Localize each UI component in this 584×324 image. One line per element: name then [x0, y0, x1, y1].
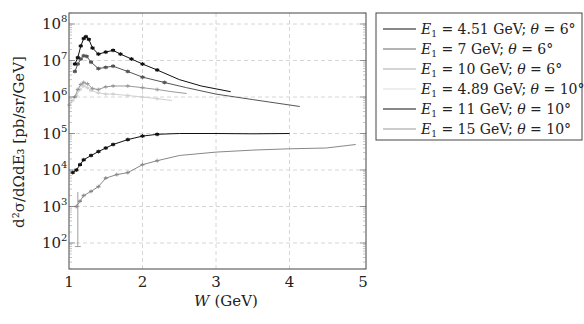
- y-tick-label: 104: [42, 159, 67, 179]
- x-tick-label: 4: [285, 273, 295, 291]
- y-tick-labels: 108107106105104103102: [42, 13, 67, 252]
- series-line: [73, 54, 300, 107]
- y-tick-label: 107: [42, 50, 67, 70]
- series-line: [74, 145, 355, 209]
- legend-entry: E1 = 15 GeV; θ = 10°: [420, 121, 571, 139]
- series-line: [71, 132, 290, 174]
- x-axis-label: W(GeV): [194, 292, 258, 310]
- x-tick-label: 2: [138, 273, 148, 291]
- data-series: [67, 35, 356, 247]
- legend-entry: E1 = 10 GeV; θ = 6°: [420, 61, 562, 79]
- x-tick-label: 5: [358, 273, 368, 291]
- series-line: [73, 35, 231, 92]
- x-tick-labels: 12345: [64, 273, 368, 291]
- y-tick-label: 106: [42, 86, 67, 106]
- legend-entry: E1 = 11 GeV; θ = 10°: [420, 101, 571, 119]
- legend: E1 = 4.51 GeV; θ = 6°E1 = 7 GeV; θ = 6°E…: [376, 13, 584, 140]
- x-tick-label: 3: [211, 273, 221, 291]
- chart: 12345 108107106105104103102 W(GeV) d²σ/d…: [0, 0, 584, 324]
- y-tick-label: 105: [42, 123, 67, 143]
- legend-entry: E1 = 7 GeV; θ = 6°: [420, 41, 553, 59]
- legend-entry: E1 = 4.51 GeV; θ = 6°: [420, 21, 576, 39]
- y-tick-label: 102: [42, 232, 67, 252]
- y-tick-label: 108: [42, 13, 67, 33]
- y-axis-label: d²σ/dΩdE₃ [pb/sr/GeV]: [10, 56, 28, 228]
- series-line: [67, 84, 172, 107]
- legend-entry: E1 = 4.89 GeV; θ = 10°: [420, 81, 584, 99]
- y-tick-label: 103: [42, 196, 67, 216]
- x-tick-label: 1: [64, 273, 74, 291]
